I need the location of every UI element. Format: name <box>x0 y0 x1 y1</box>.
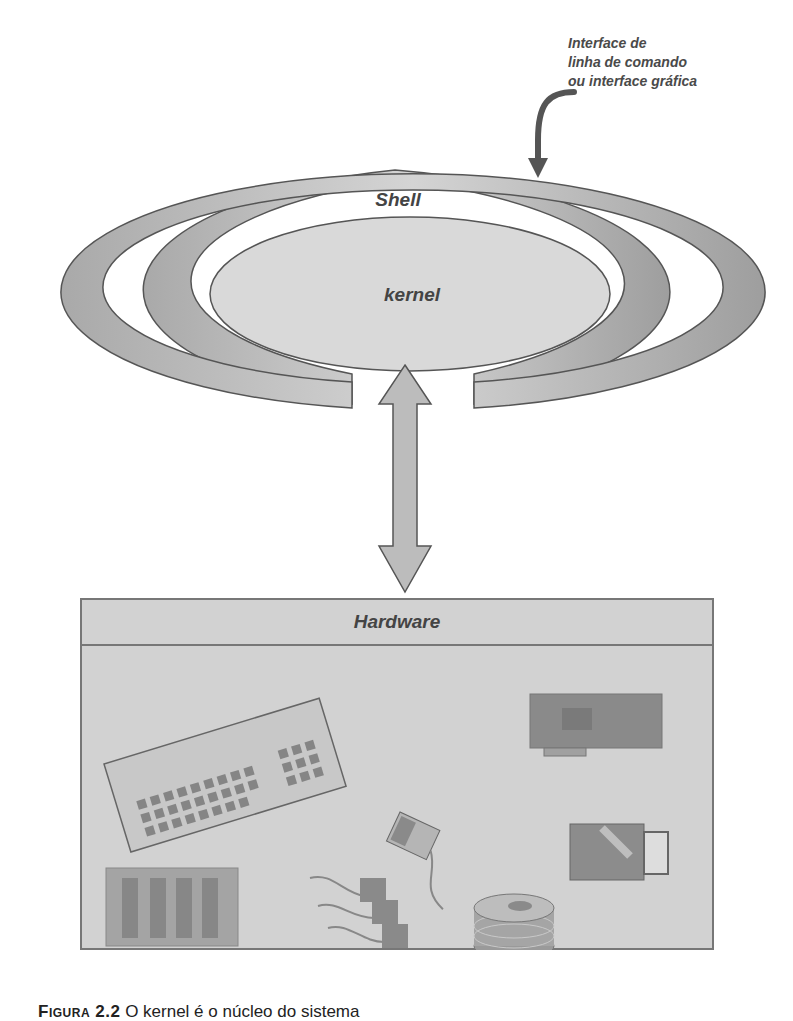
figure-label: Figura 2.2 <box>38 1002 120 1021</box>
hardware-panel: Hardware <box>80 598 714 950</box>
disk-stack-icon <box>474 894 554 950</box>
expansion-card-icon <box>530 694 662 756</box>
shell-label: Shell <box>375 189 421 210</box>
annotation-arrow-icon <box>528 92 574 178</box>
memory-module-icon <box>106 868 238 946</box>
shell-kernel-diagram: Shell kernel <box>0 0 793 600</box>
drive-icon <box>570 824 668 880</box>
caption-text: O kernel é o núcleo do sistema <box>125 1002 359 1021</box>
figure-caption: Figura 2.2 O kernel é o núcleo do sistem… <box>38 1002 360 1021</box>
hardware-label: Hardware <box>82 600 712 646</box>
keyboard-icon <box>104 698 346 852</box>
kernel-label: kernel <box>384 284 441 305</box>
hardware-devices <box>82 646 712 950</box>
double-arrow-icon <box>379 365 431 592</box>
cables-connectors-icon <box>310 877 408 948</box>
